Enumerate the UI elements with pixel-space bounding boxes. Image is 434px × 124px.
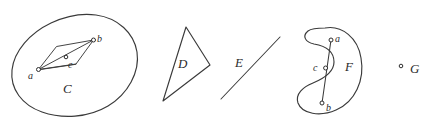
point-f-c: [324, 66, 328, 70]
region-label-g: G: [410, 62, 419, 75]
region-label-f: F: [345, 60, 353, 73]
region-c-group: [12, 14, 138, 116]
region-label-e: E: [235, 56, 243, 69]
figure-canvas: C D E F G a b c a c b: [0, 0, 434, 124]
point-label-f-b: b: [326, 103, 331, 113]
point-label-f-a: a: [335, 34, 340, 44]
point-f-a: [329, 38, 333, 42]
region-e-group: [221, 37, 280, 99]
figure-vector-layer: [0, 0, 434, 124]
region-c-outline: [12, 14, 138, 116]
region-f-segment-ab: [322, 40, 331, 103]
point-label-f-c: c: [313, 63, 317, 73]
region-g-group: [399, 64, 403, 68]
point-c-a: [37, 68, 41, 72]
point-label-c-a: a: [28, 71, 33, 81]
point-f-b: [320, 101, 324, 105]
region-label-d: D: [178, 57, 187, 70]
point-g: [399, 64, 403, 68]
point-label-c-c: c: [68, 60, 72, 70]
point-label-c-b: b: [97, 34, 102, 44]
point-c-b: [92, 38, 96, 42]
region-label-c: C: [63, 82, 72, 95]
region-e-segment: [221, 37, 280, 99]
